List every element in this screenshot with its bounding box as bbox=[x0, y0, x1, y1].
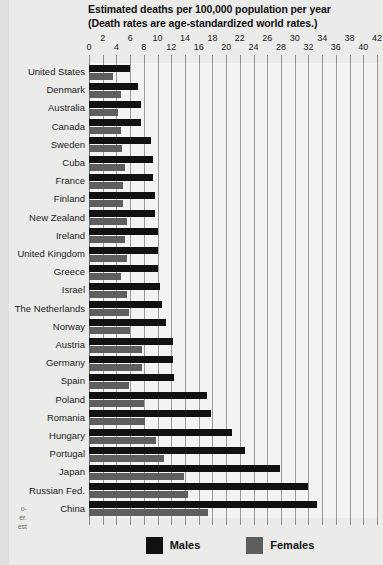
category-label: Canada bbox=[0, 121, 85, 132]
bar-females bbox=[89, 437, 156, 444]
bar-row bbox=[89, 65, 377, 83]
bar-males bbox=[89, 410, 211, 417]
category-axis-labels: United StatesDenmarkAustraliaCanadaSwede… bbox=[0, 63, 85, 518]
tickmark bbox=[199, 55, 200, 63]
x-tick-label-22: 22 bbox=[235, 33, 245, 43]
x-tick-label-28: 28 bbox=[276, 42, 286, 52]
bar-males bbox=[89, 156, 153, 163]
tickmark bbox=[226, 55, 227, 63]
category-label: Sweden bbox=[0, 139, 85, 150]
tickmark bbox=[336, 518, 337, 525]
bar-males bbox=[89, 283, 160, 290]
bar-males bbox=[89, 356, 173, 363]
tickmark bbox=[363, 518, 364, 525]
tickmark bbox=[281, 55, 282, 63]
category-label: Japan bbox=[0, 466, 85, 477]
category-label: Poland bbox=[0, 394, 85, 405]
tickmark bbox=[144, 518, 145, 525]
x-tick-label-30: 30 bbox=[290, 33, 300, 43]
bar-row bbox=[89, 247, 377, 265]
category-label: United Kingdom bbox=[0, 248, 85, 259]
category-label: Cuba bbox=[0, 157, 85, 168]
bar-males bbox=[89, 429, 232, 436]
bar-row bbox=[89, 356, 377, 374]
category-label: Finland bbox=[0, 193, 85, 204]
bar-males bbox=[89, 465, 280, 472]
tickmark bbox=[158, 55, 159, 63]
bar-males bbox=[89, 247, 158, 254]
category-label: Norway bbox=[0, 321, 85, 332]
bar-females bbox=[89, 346, 142, 353]
tickmark bbox=[254, 55, 255, 63]
x-tick-label-26: 26 bbox=[262, 33, 272, 43]
tickmark bbox=[254, 518, 255, 525]
bar-row bbox=[89, 101, 377, 119]
bar-rows bbox=[89, 63, 377, 518]
tickmark bbox=[350, 55, 351, 63]
bar-row bbox=[89, 319, 377, 337]
legend-swatch-females-icon bbox=[246, 537, 263, 554]
bar-males bbox=[89, 65, 130, 72]
bar-row bbox=[89, 137, 377, 155]
tickmark bbox=[89, 55, 90, 63]
bar-females bbox=[89, 218, 127, 225]
tickmark bbox=[103, 55, 104, 63]
category-label: Germany bbox=[0, 357, 85, 368]
bar-row bbox=[89, 374, 377, 392]
bar-females bbox=[89, 491, 188, 498]
bar-females bbox=[89, 182, 123, 189]
category-label: Hungary bbox=[0, 430, 85, 441]
x-tick-label-38: 38 bbox=[345, 33, 355, 43]
category-label: France bbox=[0, 175, 85, 186]
legend-item-males: Males bbox=[146, 537, 201, 554]
legend-label-males: Males bbox=[170, 539, 201, 551]
tickmark bbox=[308, 55, 309, 63]
x-axis-tickmarks-bottom bbox=[89, 518, 377, 525]
bar-males bbox=[89, 228, 158, 235]
bar-row bbox=[89, 447, 377, 465]
bleed-line-2: er. bbox=[1, 513, 27, 522]
tickmark bbox=[226, 518, 227, 525]
bar-males bbox=[89, 501, 317, 508]
bar-males bbox=[89, 265, 158, 272]
x-tick-label-34: 34 bbox=[317, 33, 327, 43]
bar-females bbox=[89, 145, 122, 152]
x-tick-label-0: 0 bbox=[86, 42, 91, 52]
category-label: Israel bbox=[0, 284, 85, 295]
x-tick-label-4: 4 bbox=[114, 42, 119, 52]
bar-females bbox=[89, 327, 130, 334]
bar-row bbox=[89, 156, 377, 174]
bar-females bbox=[89, 473, 184, 480]
tickmark bbox=[308, 518, 309, 525]
category-label: Austria bbox=[0, 339, 85, 350]
bar-females bbox=[89, 509, 208, 516]
bar-row bbox=[89, 83, 377, 101]
bar-row bbox=[89, 210, 377, 228]
chart-title: Estimated deaths per 100,000 population … bbox=[88, 3, 380, 30]
bar-males bbox=[89, 338, 173, 345]
bar-row bbox=[89, 192, 377, 210]
tickmark bbox=[185, 55, 186, 63]
bar-row bbox=[89, 283, 377, 301]
chart-title-line-2: (Death rates are age-standardized world … bbox=[88, 17, 380, 31]
tickmark bbox=[144, 55, 145, 63]
bleed-line-3: est bbox=[1, 522, 27, 531]
category-label: Spain bbox=[0, 375, 85, 386]
bar-females bbox=[89, 236, 125, 243]
gridline bbox=[377, 63, 378, 518]
chart-page: Estimated deaths per 100,000 population … bbox=[0, 0, 383, 565]
tickmark bbox=[363, 55, 364, 63]
category-label: Australia bbox=[0, 102, 85, 113]
tickmark bbox=[199, 518, 200, 525]
bar-row bbox=[89, 429, 377, 447]
tickmark bbox=[89, 518, 90, 525]
tickmark bbox=[322, 55, 323, 63]
x-tick-label-14: 14 bbox=[180, 33, 190, 43]
x-tick-label-8: 8 bbox=[141, 42, 146, 52]
category-label: The Netherlands bbox=[0, 303, 85, 314]
bar-females bbox=[89, 364, 142, 371]
category-label: United States bbox=[0, 66, 85, 77]
bar-males bbox=[89, 101, 141, 108]
bar-females bbox=[89, 91, 121, 98]
bar-row bbox=[89, 119, 377, 137]
